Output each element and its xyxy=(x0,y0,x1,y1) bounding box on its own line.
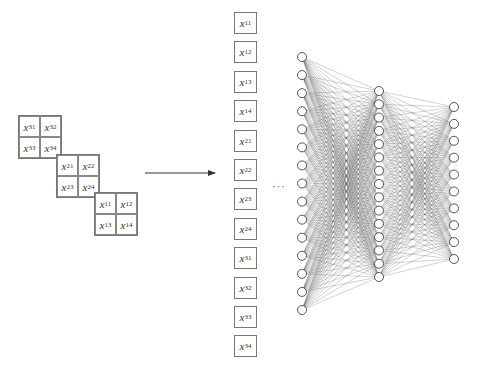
neuron-node xyxy=(375,87,384,96)
input-layer xyxy=(298,53,307,315)
neuron-node xyxy=(375,219,384,228)
neuron-node xyxy=(450,170,459,179)
neuron-node xyxy=(298,89,307,98)
neuron-node xyxy=(375,100,384,109)
neuron-node xyxy=(298,179,307,188)
neuron-node xyxy=(375,193,384,202)
neuron-node xyxy=(298,197,307,206)
neuron-node xyxy=(298,233,307,242)
neuron-node xyxy=(375,180,384,189)
neuron-node xyxy=(375,246,384,255)
neuron-node xyxy=(375,259,384,268)
neuron-node xyxy=(298,269,307,278)
neuron-node xyxy=(375,140,384,149)
neuron-node xyxy=(375,233,384,242)
neuron-node xyxy=(450,238,459,247)
neuron-node xyxy=(298,143,307,152)
neuron-node xyxy=(375,273,384,282)
neuron-node xyxy=(450,136,459,145)
neuron-node xyxy=(450,153,459,162)
neuron-node xyxy=(375,166,384,175)
neuron-node xyxy=(298,251,307,260)
neuron-node xyxy=(450,255,459,264)
neuron-node xyxy=(298,306,307,315)
neuron-node xyxy=(450,221,459,230)
neuron-node xyxy=(450,103,459,112)
neuron-node xyxy=(298,287,307,296)
neuron-node xyxy=(375,126,384,135)
neuron-node xyxy=(450,187,459,196)
hidden-layer xyxy=(375,87,384,282)
neuron-node xyxy=(375,113,384,122)
neuron-node xyxy=(375,153,384,162)
neuron-node xyxy=(298,53,307,62)
neuron-node xyxy=(450,119,459,128)
neuron-node xyxy=(298,161,307,170)
neuron-node xyxy=(298,125,307,134)
neuron-node xyxy=(375,206,384,215)
neuron-node xyxy=(298,107,307,116)
neuron-node xyxy=(450,204,459,213)
neuron-node xyxy=(298,215,307,224)
neural-network xyxy=(0,0,479,377)
output-layer xyxy=(450,103,459,264)
neuron-node xyxy=(298,71,307,80)
